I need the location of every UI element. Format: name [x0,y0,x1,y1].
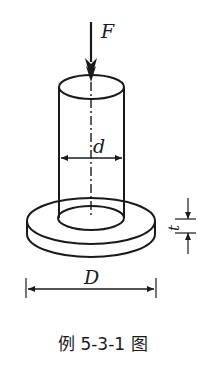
figure-caption: 例 5-3-1 图 [58,334,148,354]
force-label: F [100,20,115,42]
thickness-label: t [165,224,183,231]
figure-diagram: F d t D 例 5-3-1 图 [0,0,217,372]
inner-diameter-label: d [93,135,105,157]
outer-diameter-label: D [83,266,99,288]
